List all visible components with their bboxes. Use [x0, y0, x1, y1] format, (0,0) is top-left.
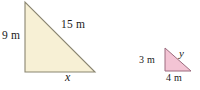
small-triangle-base-label: 4 m	[166, 73, 182, 83]
small-triangle-shape	[165, 48, 191, 71]
large-triangle-base-label: x	[65, 71, 71, 83]
geometry-figure: 9 m 15 m x 3 m 4 m y	[0, 0, 200, 90]
large-triangle-shape	[25, 2, 95, 72]
small-triangle-hypotenuse-label: y	[179, 48, 184, 59]
small-triangle-vertical-leg-label: 3 m	[139, 55, 155, 65]
large-triangle-vertical-leg-label: 9 m	[2, 30, 20, 42]
large-triangle-hypotenuse-label: 15 m	[61, 19, 85, 31]
